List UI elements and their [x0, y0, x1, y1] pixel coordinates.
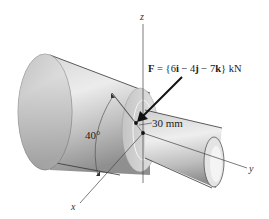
force-label: F = {6i − 4j − 7k} kN	[148, 63, 242, 74]
force-eq-part: − 7	[199, 63, 215, 74]
dimension-label: 30 mm	[152, 117, 183, 129]
force-eq-part: − 4	[179, 63, 196, 74]
origin-point	[141, 131, 145, 135]
force-unit: } kN	[221, 63, 242, 74]
z-axis-label: z	[139, 11, 144, 22]
diagram-canvas: z y x 40° 30 mm F = {6i − 4j − 7k} kN	[0, 0, 269, 219]
force-eq-part: = {6	[154, 63, 175, 74]
x-axis-label: x	[70, 201, 76, 212]
y-axis-label: y	[248, 163, 254, 174]
angle-label: 40°	[85, 129, 100, 141]
